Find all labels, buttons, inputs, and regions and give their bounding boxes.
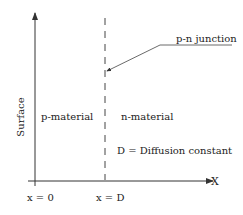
x-tick-d: x = D <box>96 193 124 203</box>
n-material-label: n-material <box>121 112 173 122</box>
x-axis-label: X <box>211 176 219 187</box>
x-tick-0: x = 0 <box>27 193 54 203</box>
diffusion-note: D = Diffusion constant <box>117 146 232 156</box>
p-material-label: p-material <box>41 112 93 122</box>
pn-junction-diagram: Surface X p-material n-material p-n junc… <box>0 0 243 215</box>
junction-label: p-n junction <box>176 34 237 44</box>
y-axis-label: Surface <box>16 92 26 142</box>
callout-arrow <box>107 45 160 71</box>
